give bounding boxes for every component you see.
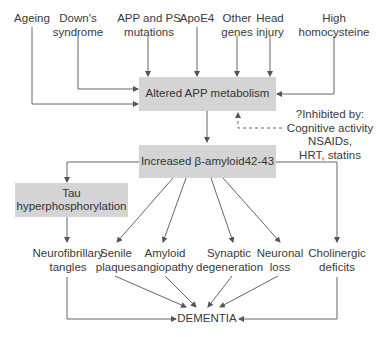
edge-angiopathy-to-dementia: [165, 276, 196, 307]
risk-app-ps-mutations: APP and PS mutations: [114, 12, 184, 39]
risk-ageing: Ageing: [8, 12, 56, 26]
risk-other-genes: Other genes: [217, 12, 257, 39]
tau-hyperphosphorylation-box: Tau hyperphosphorylation: [15, 183, 128, 217]
edge-amyloid-to-tau: [67, 162, 139, 182]
edge-downs: [78, 36, 138, 89]
outcome-synaptic-degeneration: Synaptic degeneration: [196, 247, 262, 274]
outcome-amyloid-angiopathy: Amyloid angiopathy: [136, 247, 194, 274]
beta-amyloid-box: Increased β-amyloid42-43: [139, 145, 276, 178]
edge-homocysteine: [277, 36, 334, 94]
edge-nft-to-dementia: [67, 277, 176, 319]
inhibitors-note: ?Inhibited by: Cognitive activity NSAIDs…: [280, 108, 380, 162]
risk-downs-syndrome: Down's syndrome: [50, 12, 106, 39]
edge-inhibitors: [238, 113, 282, 128]
edge-senile-to-dementia: [115, 276, 186, 307]
edge-amyloid-to-cholinergic: [276, 162, 337, 242]
risk-head-injury: Head injury: [252, 12, 288, 39]
risk-apoe4: ApoE4: [177, 12, 217, 26]
edge-cholinergic-to-dementia: [239, 277, 337, 319]
diagram-canvas: Ageing Down's syndrome APP and PS mutati…: [0, 0, 382, 337]
outcome-senile-plaques: Senile plaques: [94, 247, 138, 274]
altered-app-metabolism-box: Altered APP metabolism: [139, 77, 276, 111]
outcome-cholinergic-deficits: Cholinergic deficits: [305, 247, 369, 274]
outcome-neuronal-loss: Neuronal loss: [255, 247, 305, 274]
edge-amyloid-to-angiopathy: [163, 178, 186, 242]
dementia-label: DEMENTIA: [176, 312, 238, 326]
risk-high-homocysteine: High homocysteine: [294, 12, 374, 39]
edge-amyloid-to-synaptic: [211, 178, 233, 242]
edge-amyloid-to-neuronal: [223, 178, 280, 242]
